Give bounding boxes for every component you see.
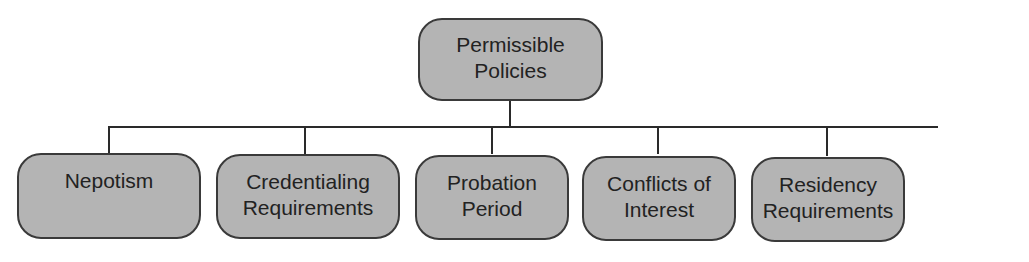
node-label-line1: Residency: [779, 172, 877, 198]
node-probation-period: Probation Period: [415, 155, 569, 240]
node-label-line2: Requirements: [763, 198, 894, 224]
node-label-line1: Permissible: [456, 32, 565, 58]
child-connector-5: [826, 126, 828, 156]
node-label-line1: Conflicts of: [607, 171, 711, 197]
node-residency-requirements: Residency Requirements: [751, 157, 905, 242]
node-label-line2: Requirements: [243, 195, 374, 221]
node-label-line2: Policies: [474, 58, 546, 84]
node-label-line2: Interest: [624, 197, 694, 223]
child-connector-3: [491, 126, 493, 154]
node-conflicts-of-interest: Conflicts of Interest: [582, 156, 736, 241]
node-label-line1: Probation: [447, 170, 537, 196]
child-connector-1: [108, 126, 110, 154]
child-connector-4: [657, 126, 659, 154]
node-credentialing-requirements: Credentialing Requirements: [216, 154, 400, 239]
node-label-line2: Period: [462, 196, 523, 222]
node-permissible-policies: Permissible Policies: [418, 18, 603, 101]
node-label-line1: Credentialing: [246, 169, 370, 195]
node-label-line1: Nepotism: [65, 168, 154, 194]
horizontal-connector: [108, 126, 938, 128]
root-connector: [509, 99, 511, 127]
node-nepotism: Nepotism: [17, 153, 201, 239]
child-connector-2: [304, 126, 306, 154]
